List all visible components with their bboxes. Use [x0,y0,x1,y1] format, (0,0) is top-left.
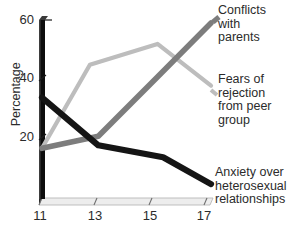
x-tick-label-17: 17 [191,209,217,222]
y-axis [39,16,48,199]
series-line-fears-of-rejection [42,44,211,148]
x-tick-label-13: 13 [82,209,108,222]
y-axis-title: Percentage [10,56,23,132]
x-tick-label-15: 15 [137,209,163,222]
x-axis-band [39,192,213,205]
x-axis-band-top [39,198,213,205]
series-label-fears-of-rejection: Fears of rejection from peer group [218,73,290,127]
series-label-anxiety-heterosexual: Anxiety over heterosexual relationships [215,166,291,207]
series-label-conflicts-with-parents: Conflicts with parents [218,4,290,45]
y-tick-label-60: 60 [6,13,34,26]
y-axis-highlight [39,20,41,199]
leader-fears [211,90,217,95]
line-chart: Percentage 60 40 20 11 13 15 17 Conflict… [0,0,291,235]
y-tick-label-20: 20 [6,130,34,143]
y-tick-label-40: 40 [6,71,34,84]
series-line-conflicts-with-parents [42,23,211,148]
x-tick-label-11: 11 [27,209,53,222]
